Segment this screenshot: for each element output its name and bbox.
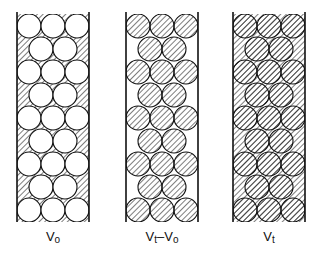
particle-circle xyxy=(126,198,150,222)
column-vo xyxy=(17,12,89,222)
particle-circle xyxy=(138,175,162,199)
particle-circle xyxy=(65,152,89,176)
particle-circle xyxy=(41,60,65,84)
label-vt-minus-vo: Vt–Vo xyxy=(122,229,202,245)
particle-circle xyxy=(150,14,174,38)
particle-circle xyxy=(17,106,41,130)
particle-circle xyxy=(233,60,257,84)
particle-circle xyxy=(174,152,198,176)
particle-circle xyxy=(29,37,53,61)
particle-circle xyxy=(29,83,53,107)
particle-circle xyxy=(41,198,65,222)
particle-circle xyxy=(281,60,305,84)
particle-circle xyxy=(281,198,305,222)
particle-circle xyxy=(17,198,41,222)
particle-circle xyxy=(257,60,281,84)
particle-circle xyxy=(233,106,257,130)
packing-diagram xyxy=(0,0,325,255)
particle-circle xyxy=(269,83,293,107)
particle-circle xyxy=(126,60,150,84)
columns-group xyxy=(17,12,305,222)
particle-circle xyxy=(269,129,293,153)
particle-circle xyxy=(65,14,89,38)
label-vo: Vo xyxy=(13,229,93,245)
particle-circle xyxy=(138,37,162,61)
particle-circle xyxy=(174,106,198,130)
particle-circle xyxy=(126,152,150,176)
particle-circle xyxy=(41,152,65,176)
particle-circle xyxy=(281,106,305,130)
particle-circle xyxy=(162,83,186,107)
particle-circle xyxy=(65,106,89,130)
particle-circle xyxy=(233,198,257,222)
particle-circle xyxy=(126,106,150,130)
particle-circle xyxy=(269,175,293,199)
particle-circle xyxy=(150,152,174,176)
particle-circle xyxy=(138,83,162,107)
particle-circle xyxy=(257,14,281,38)
label-vt: Vt xyxy=(229,229,309,245)
particle-circle xyxy=(150,198,174,222)
particle-circle xyxy=(233,152,257,176)
particle-circle xyxy=(29,129,53,153)
particle-circle xyxy=(53,83,77,107)
particle-circle xyxy=(29,175,53,199)
particle-circle xyxy=(281,14,305,38)
particle-circle xyxy=(174,14,198,38)
particle-circle xyxy=(257,106,281,130)
particle-circle xyxy=(245,83,269,107)
particle-circle xyxy=(269,37,293,61)
particle-circle xyxy=(53,37,77,61)
particle-circle xyxy=(126,14,150,38)
particle-circle xyxy=(245,37,269,61)
particle-circle xyxy=(281,152,305,176)
column-vt-vo xyxy=(126,12,198,222)
particle-circle xyxy=(41,14,65,38)
particle-circle xyxy=(53,175,77,199)
particle-circle xyxy=(17,60,41,84)
particle-circle xyxy=(174,198,198,222)
particle-circle xyxy=(150,60,174,84)
particle-circle xyxy=(233,14,257,38)
particle-circle xyxy=(138,129,162,153)
particle-circle xyxy=(257,198,281,222)
particle-circle xyxy=(53,129,77,153)
particle-circle xyxy=(257,152,281,176)
particle-circle xyxy=(17,152,41,176)
particle-circle xyxy=(245,175,269,199)
particle-circle xyxy=(65,60,89,84)
particle-circle xyxy=(162,175,186,199)
particle-circle xyxy=(150,106,174,130)
particle-circle xyxy=(162,37,186,61)
particle-circle xyxy=(65,198,89,222)
particle-circle xyxy=(174,60,198,84)
column-vt xyxy=(233,12,305,222)
particle-circle xyxy=(245,129,269,153)
particle-circle xyxy=(17,14,41,38)
particle-circle xyxy=(162,129,186,153)
particle-circle xyxy=(41,106,65,130)
